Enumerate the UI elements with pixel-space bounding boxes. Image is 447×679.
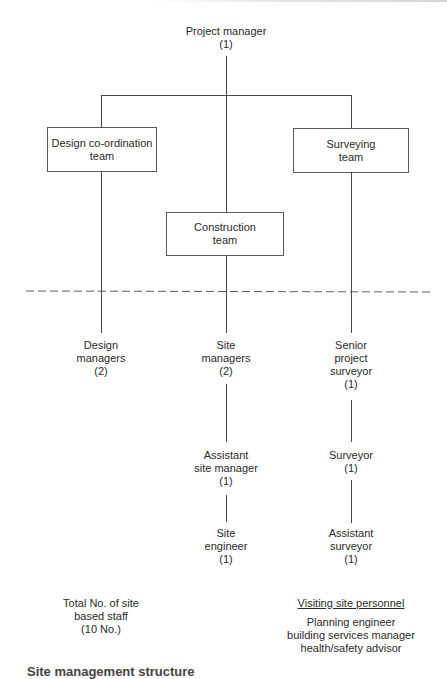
visiting-personnel-heading: Visiting site personnel [287,597,415,610]
construction-team-box: Construction team [166,212,284,256]
total-staff-count: (10 No.) [63,623,139,636]
site-engineer-count: (1) [205,553,248,566]
surveyor-count: (1) [329,462,373,475]
assistant-surveyor-line: Assistant [329,527,374,540]
construction-team-label-line1: Construction [194,221,256,234]
senior-surveyor-line: surveyor [330,365,372,378]
surveying-team-label-line1: Surveying [327,138,376,151]
design-managers-line: managers [77,352,126,365]
design-managers-line: Design [77,339,126,352]
design-managers-count: (2) [77,365,126,378]
site-engineer-line: engineer [205,540,248,553]
design-team-label-line1: Design co-ordination [52,137,153,150]
visiting-personnel-note: Visiting site personnel Planning enginee… [287,597,415,655]
project-manager-count: (1) [186,38,267,51]
site-managers-line: managers [202,352,251,365]
visiting-personnel-item: building services manager [287,629,415,642]
site-managers-count: (2) [202,365,251,378]
senior-project-surveyor-node: Senior project surveyor (1) [330,339,372,391]
senior-surveyor-line: Senior [330,339,372,352]
total-site-staff-note: Total No. of site based staff (10 No.) [63,597,139,636]
site-engineer-node: Site engineer (1) [205,527,248,566]
senior-surveyor-count: (1) [330,378,372,391]
figure-caption: Site management structure [27,664,195,679]
assistant-site-manager-line: site manager [194,462,258,475]
site-engineer-line: Site [205,527,248,540]
assistant-surveyor-count: (1) [329,553,374,566]
construction-team-label-line2: team [194,234,256,247]
assistant-site-manager-line: Assistant [194,449,258,462]
assistant-site-manager-node: Assistant site manager (1) [194,449,258,488]
assistant-site-manager-count: (1) [194,475,258,488]
senior-surveyor-line: project [330,352,372,365]
design-team-label-line2: team [52,150,153,163]
surveying-team-box: Surveying team [293,128,409,173]
project-manager-node: Project manager (1) [186,25,267,51]
total-staff-line: based staff [63,610,139,623]
site-managers-line: Site [202,339,251,352]
project-manager-title: Project manager [186,25,267,38]
assistant-surveyor-node: Assistant surveyor (1) [329,527,374,566]
visiting-personnel-item: health/safety advisor [287,642,415,655]
design-managers-node: Design managers (2) [77,339,126,378]
surveying-team-label-line2: team [327,151,376,164]
site-boundary-dashed-line [26,291,430,292]
assistant-surveyor-line: surveyor [329,540,374,553]
site-managers-node: Site managers (2) [202,339,251,378]
surveyor-node: Surveyor (1) [329,449,373,475]
surveyor-line: Surveyor [329,449,373,462]
design-coordination-team-box: Design co-ordination team [47,127,157,172]
total-staff-line: Total No. of site [63,597,139,610]
visiting-personnel-item: Planning engineer [287,616,415,629]
